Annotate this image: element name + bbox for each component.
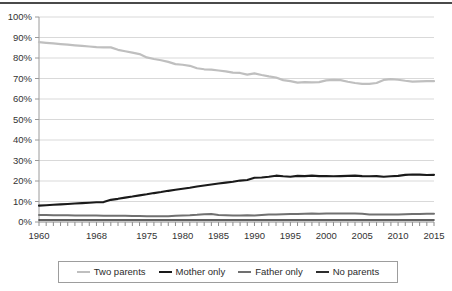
legend-line-swatch [316, 271, 329, 273]
x-axis-tick-label: 1985 [208, 230, 229, 241]
y-axis-tick-label: 40% [13, 134, 33, 145]
plot-area: 0%10%20%30%40%50%60%70%80%90%100% 196019… [0, 0, 452, 252]
x-axis-tick-label: 1995 [280, 230, 301, 241]
legend-line-swatch [77, 271, 90, 273]
x-axis-tick-label: 2010 [388, 230, 409, 241]
y-axis-tick-label: 30% [13, 155, 33, 166]
x-axis-labels-group: 1960196819751980198519901995200020052010… [28, 230, 444, 241]
y-axis-tick-label: 0% [18, 216, 32, 227]
series-line-two-parents [39, 42, 434, 84]
y-axis-tick-label: 70% [13, 73, 33, 84]
legend-item-label: No parents [333, 267, 379, 277]
y-axis-tick-label: 80% [13, 52, 33, 63]
chart-legend: Two parentsMother onlyFather onlyNo pare… [58, 261, 398, 283]
legend-item-label: Father only [255, 267, 303, 277]
legend-item-no-parents[interactable]: No parents [316, 267, 379, 277]
series-line-mother-only [39, 174, 434, 205]
x-axis-ticks-group [39, 222, 434, 226]
x-axis-tick-label: 1960 [28, 230, 49, 241]
x-axis-tick-label: 1968 [86, 230, 107, 241]
legend-line-swatch [159, 271, 172, 273]
series-line-father-only [39, 214, 434, 217]
line-chart-svg: 0%10%20%30%40%50%60%70%80%90%100% 196019… [0, 0, 452, 252]
y-axis-tick-label: 90% [13, 32, 33, 43]
x-axis-tick-label: 2005 [352, 230, 373, 241]
y-axis-tick-label: 10% [13, 196, 33, 207]
y-axis-tick-label: 100% [8, 11, 33, 22]
y-axis-labels-group: 0%10%20%30%40%50%60%70%80%90%100% [8, 11, 33, 227]
x-axis-tick-label: 1980 [172, 230, 193, 241]
y-axis-tick-label: 60% [13, 93, 33, 104]
legend-item-two-parents[interactable]: Two parents [77, 267, 146, 277]
x-axis-tick-label: 1975 [136, 230, 157, 241]
y-axis-tick-label: 50% [13, 114, 33, 125]
x-axis-tick-label: 2000 [316, 230, 337, 241]
legend-line-swatch [238, 271, 251, 273]
data-series-group [39, 42, 434, 220]
y-axis-tick-label: 20% [13, 175, 33, 186]
legend-item-label: Mother only [176, 267, 226, 277]
legend-item-father-only[interactable]: Father only [238, 267, 303, 277]
chart-figure: 0%10%20%30%40%50%60%70%80%90%100% 196019… [0, 0, 452, 291]
legend-item-mother-only[interactable]: Mother only [159, 267, 226, 277]
legend-item-label: Two parents [94, 267, 146, 277]
x-axis-tick-label: 1990 [244, 230, 265, 241]
x-axis-tick-label: 2015 [423, 230, 444, 241]
